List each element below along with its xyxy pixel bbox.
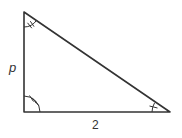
right-corner-angle-mark — [24, 96, 40, 113]
bottom-right-angle-mark — [150, 103, 158, 112]
side-label-bottom: 2 — [92, 118, 99, 132]
triangle-outline — [24, 12, 170, 112]
triangle-diagram: p 2 — [0, 0, 182, 138]
side-label-p: p — [8, 60, 16, 75]
top-angle-mark — [24, 20, 37, 28]
